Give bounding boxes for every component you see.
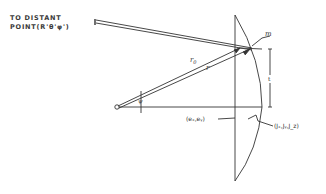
r0-vector-line (118, 48, 240, 106)
distant-point-caption-line1: TO DISTANT (10, 15, 62, 22)
t-dimension-label: t (268, 75, 270, 82)
surface-point-label: (Jₓ,Jᵧ,J_z) (274, 123, 299, 129)
distant-ray-1 (96, 20, 252, 48)
aperture-point-label: (eₓ,eᵧ) (186, 116, 205, 122)
distant-ray-2 (96, 23, 252, 50)
m-vector-label: m (265, 30, 272, 38)
distant-point-caption-line2: POINT(R'θ'φ') (10, 24, 69, 31)
r-vector-label: r (206, 64, 209, 72)
r0-vector-label: r0 (190, 56, 197, 65)
psi-angle-label: ψ (138, 97, 143, 104)
reflector-surface (235, 15, 262, 181)
